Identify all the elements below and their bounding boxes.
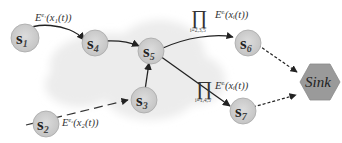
svg-text:∏: ∏ — [191, 6, 207, 29]
node-s2: s2 — [33, 111, 59, 137]
node-s6: s6 — [235, 30, 261, 56]
node-s3: s3 — [131, 87, 157, 113]
svg-text:Eeᵢ(xᵢ(t)): Eeᵢ(xᵢ(t)) — [214, 80, 249, 92]
label-s1-s4: Ee₁(x₁(t)) — [34, 12, 72, 24]
label-s5-s6-product: ∏ i=2,3,5 Eeᵢ(xᵢ(t)) — [190, 6, 249, 33]
edge-s6-sink — [258, 45, 297, 72]
svg-text:Ee₂(x₂(t)): Ee₂(x₂(t)) — [61, 117, 99, 129]
svg-text:i=2,3,5: i=2,3,5 — [190, 27, 206, 33]
node-s5: s5 — [138, 38, 164, 64]
edge-s7-sink — [253, 95, 296, 107]
svg-text:Eeᵢ(xᵢ(t)): Eeᵢ(xᵢ(t)) — [214, 9, 249, 21]
node-s7: s7 — [230, 98, 256, 124]
sensor-network-diagram: s1 s4 s5 s3 s2 s6 s7 Sink Ee₁(x₁(t)) Ee₂… — [0, 0, 342, 143]
node-s1: s1 — [11, 24, 39, 52]
svg-text:Ee₁(x₁(t)): Ee₁(x₁(t)) — [34, 12, 72, 24]
svg-text:Sink: Sink — [305, 74, 331, 90]
svg-text:i=1,4,5: i=1,4,5 — [195, 97, 211, 103]
sink-node: Sink — [300, 64, 340, 100]
node-s4: s4 — [82, 30, 108, 56]
label-s2-s3: Ee₂(x₂(t)) — [61, 117, 99, 129]
